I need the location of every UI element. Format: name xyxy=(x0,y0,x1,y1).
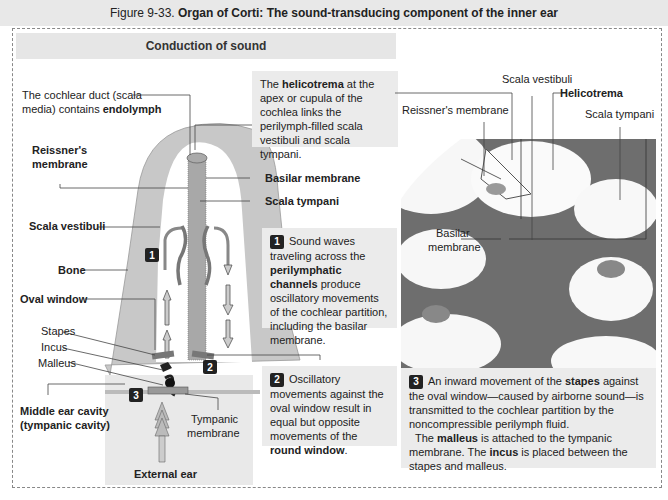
step3-box: 3An inward movement of the stapes agains… xyxy=(401,368,656,468)
photo-label-scala-tympani: Scala tympani xyxy=(585,108,654,121)
text: The xyxy=(415,432,437,444)
photo-label-scala-vestibuli: Scala vestibuli xyxy=(502,73,572,86)
step3-paragraph2: The malleus is attached to the tympanic … xyxy=(409,431,648,473)
step3-badge: 3 xyxy=(409,375,423,389)
photo-label-reissner: Reissner's membrane xyxy=(402,104,509,117)
term-malleus: malleus xyxy=(437,432,478,444)
text: An inward movement of the xyxy=(428,375,565,387)
step3-paragraph1: 3An inward movement of the stapes agains… xyxy=(409,374,648,431)
photo-label-basilar-line2: membrane xyxy=(428,241,481,254)
photo-label-helicotrema: Helicotrema xyxy=(560,87,623,100)
term-incus: incus xyxy=(490,446,519,458)
term-stapes: stapes xyxy=(565,375,600,387)
photo-label-basilar-line1: Basilar xyxy=(436,227,470,240)
